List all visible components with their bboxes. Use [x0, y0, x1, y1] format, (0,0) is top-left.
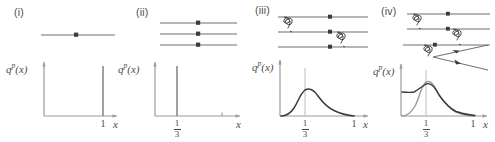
axes-ii	[153, 62, 240, 118]
axes-i	[42, 62, 117, 118]
panel-iv: (iv)	[375, 0, 495, 142]
panel-i: (i) qp(x) 1 x	[0, 0, 125, 142]
interaction-dot	[328, 30, 332, 34]
x-axis-label-i: x	[113, 118, 118, 130]
x-axis-label-iii: x	[363, 118, 368, 130]
x-tick-label-one: 1	[468, 118, 478, 129]
gluon-curl	[413, 14, 421, 25]
axes-iii	[278, 60, 368, 118]
y-label-argument: (x)	[261, 61, 273, 73]
interaction-dot	[74, 33, 78, 37]
panel-ii: (ii) qp(x) 1	[125, 0, 250, 142]
x-tick-label-one: 1	[98, 118, 108, 129]
diagram-ii	[160, 21, 237, 47]
y-axis-arrow	[153, 62, 156, 67]
fraction-denominator: 3	[170, 130, 184, 139]
gluon-curl	[453, 29, 461, 40]
gluon-stub	[424, 45, 426, 46]
gluon-curl	[424, 45, 432, 56]
gluon-stub	[337, 32, 339, 33]
y-axis-label-iv: qp(x)	[373, 63, 394, 77]
gluon-stub	[413, 14, 415, 15]
interaction-dot	[328, 45, 332, 49]
gluon-curl	[337, 32, 345, 43]
interaction-dot	[433, 43, 437, 47]
sea-quark-arrowhead	[453, 50, 460, 54]
diagram-iv	[403, 12, 490, 70]
y-label-argument: (x)	[15, 63, 27, 75]
y-axis-label-i: qp(x)	[6, 61, 27, 75]
valence-reference-curve	[402, 82, 474, 116]
y-label-argument: (x)	[127, 63, 139, 75]
fraction-numerator: 1	[419, 119, 433, 128]
gluon-stub	[453, 29, 455, 30]
diagram-i	[41, 33, 115, 37]
valence-curve	[281, 89, 354, 116]
total-distribution-curve	[402, 84, 475, 116]
interaction-dot	[446, 12, 450, 16]
fraction-numerator: 1	[170, 119, 184, 128]
y-axis-arrow	[42, 62, 45, 67]
interaction-dot	[196, 43, 200, 47]
y-axis-arrow	[278, 60, 281, 65]
y-axis-arrow	[399, 64, 402, 69]
fraction-denominator: 3	[419, 130, 433, 139]
fraction-denominator: 3	[298, 130, 312, 139]
x-tick-label-one: 1	[349, 118, 359, 129]
sea-quark-line	[433, 45, 488, 57]
gluon-curl	[284, 17, 292, 28]
panel-iii: (iii)	[250, 0, 375, 142]
y-label-argument: (x)	[382, 65, 394, 77]
diagram-iii	[278, 15, 368, 49]
y-axis-label-ii: qp(x)	[118, 61, 139, 75]
x-tick-label-one-third: 1 3	[170, 119, 184, 139]
fraction-numerator: 1	[298, 119, 312, 128]
x-axis-label-iv: x	[483, 118, 488, 130]
gluon-stub	[284, 17, 286, 18]
y-axis-label-iii: qp(x)	[252, 59, 273, 73]
interaction-dot	[196, 21, 200, 25]
x-axis-label-ii: x	[236, 118, 241, 130]
interaction-dot	[446, 27, 450, 31]
x-tick-label-one-third: 1 3	[419, 119, 433, 139]
panel-ii-graphics	[125, 0, 250, 142]
interaction-dot	[328, 15, 332, 19]
x-tick-label-one-third: 1 3	[298, 119, 312, 139]
interaction-dot	[196, 32, 200, 36]
parton-distribution-figure: (i) qp(x) 1 x (ii)	[0, 0, 495, 142]
